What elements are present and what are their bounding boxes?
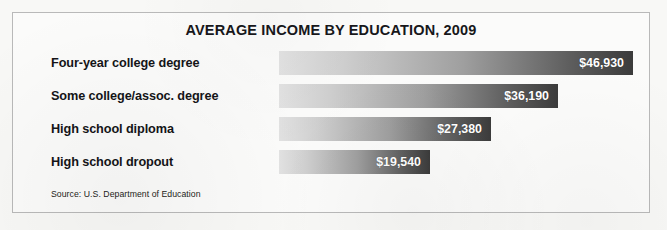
bar-track: $19,540 xyxy=(279,150,430,174)
bar-category-label: High school dropout xyxy=(51,150,173,174)
bar-value-label: $36,190 xyxy=(504,84,549,108)
bar-value-label: $19,540 xyxy=(376,150,421,174)
chart-title: AVERAGE INCOME BY EDUCATION, 2009 xyxy=(13,22,649,38)
bar-track: $46,930 xyxy=(279,51,633,75)
chart-figure: AVERAGE INCOME BY EDUCATION, 2009 Four-y… xyxy=(12,12,650,213)
bar-row: High school dropout $19,540 xyxy=(13,150,649,174)
chart-plot-area: Four-year college degree $46,930 Some co… xyxy=(13,51,649,183)
bar-category-label: Some college/assoc. degree xyxy=(51,84,218,108)
bar-value-label: $46,930 xyxy=(579,51,624,75)
bar-category-label: Four-year college degree xyxy=(51,51,200,75)
bar-row: Some college/assoc. degree $36,190 xyxy=(13,84,649,108)
source-note: Source: U.S. Department of Education xyxy=(51,189,201,199)
bar-track: $36,190 xyxy=(279,84,558,108)
bar-value-label: $27,380 xyxy=(437,117,482,141)
bar-category-label: High school diploma xyxy=(51,117,174,141)
bar-row: High school diploma $27,380 xyxy=(13,117,649,141)
bar-track: $27,380 xyxy=(279,117,491,141)
bar-row: Four-year college degree $46,930 xyxy=(13,51,649,75)
